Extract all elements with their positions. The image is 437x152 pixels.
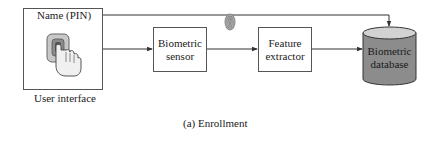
user-interface-label: User interface <box>34 92 96 104</box>
biometric-sensor-node[interactable]: Biometric sensor <box>153 27 207 72</box>
sensor-label-line1: Biometric <box>158 37 202 50</box>
figure-caption: (a) Enrollment <box>183 117 247 129</box>
user-interface-panel: Name (PIN) <box>23 8 103 90</box>
database-label-line1: Biometric <box>363 45 416 58</box>
database-label-line2: database <box>363 58 416 71</box>
feature-extractor-node[interactable]: Feature extractor <box>258 27 312 72</box>
extractor-label-line2: extractor <box>265 50 304 63</box>
extractor-label-line1: Feature <box>269 37 302 50</box>
name-pin-label: Name (PIN) <box>37 9 91 22</box>
sensor-label-line2: sensor <box>166 50 194 63</box>
finger-press-icon[interactable] <box>44 32 84 78</box>
biometric-database-node[interactable]: Biometric database <box>363 45 416 71</box>
fingerprint-icon <box>225 14 236 31</box>
edge-name-to-database <box>97 15 389 26</box>
